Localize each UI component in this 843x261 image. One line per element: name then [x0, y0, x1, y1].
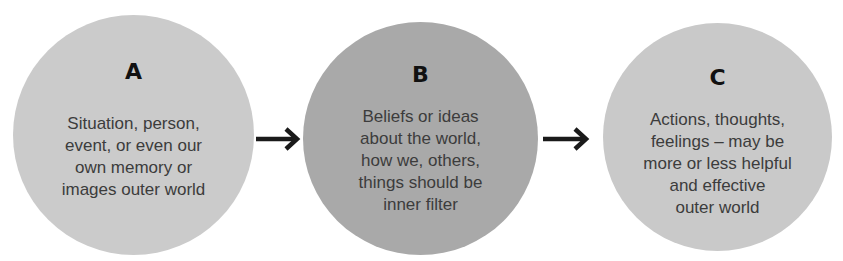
arrow-right-icon — [256, 126, 302, 152]
circle-a-letter: A — [13, 59, 254, 84]
circle-c-letter: C — [603, 65, 832, 90]
circle-a-situation: A Situation, person, event, or even our … — [13, 15, 254, 255]
circle-a-description: Situation, person, event, or even our ow… — [13, 113, 254, 201]
circle-b-description: Beliefs or ideas about the world, how we… — [303, 106, 538, 216]
circle-b-letter: B — [303, 62, 538, 87]
circle-b-beliefs: B Beliefs or ideas about the world, how … — [303, 22, 538, 255]
circle-c-description: Actions, thoughts, feelings – may be mor… — [603, 109, 832, 219]
circle-c-consequences: C Actions, thoughts, feelings – may be m… — [603, 23, 832, 251]
arrow-right-icon — [543, 126, 591, 152]
